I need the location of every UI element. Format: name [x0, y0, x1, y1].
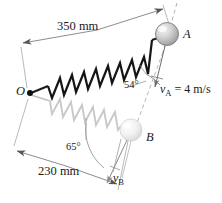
angle-label-54: 54°	[124, 80, 139, 91]
velocity-label-a: vA = 4 m/s	[160, 83, 211, 98]
point-label-b: B	[146, 131, 154, 144]
point-label-a: A	[183, 28, 191, 41]
pivot-point-o	[27, 90, 33, 96]
angle-label-65: 65°	[66, 142, 81, 153]
dimension-extension-lines-top	[21, 5, 170, 88]
figure-canvas: 350 mm 230 mm O A B 54° 65° vA = 4 m/s v…	[0, 0, 222, 203]
spring-ob-ghost	[31, 95, 126, 130]
point-label-o: O	[16, 85, 25, 98]
velocity-a-value: = 4 m/s	[171, 82, 210, 96]
rod-o-to-a	[31, 38, 158, 93]
velocity-b-subscript: B	[118, 177, 124, 187]
angle-arc-65	[86, 118, 104, 168]
ball-b	[120, 119, 142, 141]
dimension-label-230: 230 mm	[38, 165, 79, 178]
dimension-label-350: 350 mm	[57, 20, 98, 33]
ball-a	[156, 23, 179, 46]
velocity-label-b: vB	[113, 172, 124, 187]
